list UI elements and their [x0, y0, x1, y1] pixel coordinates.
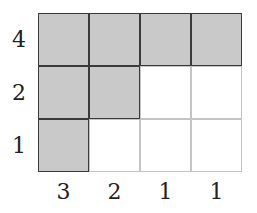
empty-cell [191, 66, 242, 119]
shaded-cell [38, 119, 89, 172]
empty-cell [140, 66, 191, 119]
shaded-cell [38, 66, 89, 119]
young-diagram-grid [38, 13, 242, 172]
shaded-cell [38, 13, 89, 66]
empty-cell [89, 119, 140, 172]
column-label-1: 3 [38, 178, 89, 206]
shaded-cell [89, 66, 140, 119]
column-label-2: 2 [89, 178, 140, 206]
shaded-cell [191, 13, 242, 66]
column-label-3: 1 [140, 178, 191, 206]
shaded-cell [89, 13, 140, 66]
row-label-3: 1 [6, 119, 32, 172]
empty-cell [140, 119, 191, 172]
shaded-cell [140, 13, 191, 66]
column-label-4: 1 [191, 178, 242, 206]
row-label-1: 4 [6, 13, 32, 66]
empty-cell [191, 119, 242, 172]
row-label-2: 2 [6, 66, 32, 119]
